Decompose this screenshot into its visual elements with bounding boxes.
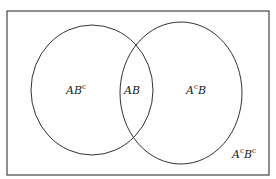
region-b-only-label: AcB xyxy=(185,83,206,97)
venn-diagram: ABc AB AcB AcBc xyxy=(0,0,276,179)
region-intersection-label: AB xyxy=(123,84,140,97)
region-outside-label: AcBc xyxy=(231,147,256,161)
region-a-only-label: ABc xyxy=(65,83,86,97)
